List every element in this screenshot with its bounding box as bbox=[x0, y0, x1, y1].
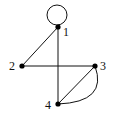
edge-1-2 bbox=[22, 27, 58, 66]
node-2 bbox=[19, 63, 24, 68]
node-label-1: 1 bbox=[63, 25, 69, 39]
node-3 bbox=[92, 63, 97, 68]
node-4 bbox=[55, 101, 60, 106]
node-label-3: 3 bbox=[100, 59, 106, 73]
node-label-2: 2 bbox=[9, 59, 15, 73]
graph-diagram: 1 2 3 4 bbox=[0, 0, 117, 118]
node-1 bbox=[55, 24, 60, 29]
edge-3-4-straight bbox=[58, 66, 95, 104]
node-label-4: 4 bbox=[45, 98, 51, 112]
edge-loop-1 bbox=[47, 5, 67, 25]
